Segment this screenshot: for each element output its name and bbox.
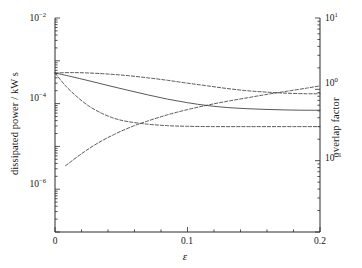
x-axis-title: ε — [150, 250, 220, 262]
curve-2 — [55, 73, 320, 127]
data-curves — [55, 73, 320, 166]
xtick-label-0: 0 — [35, 236, 75, 246]
y-axis-title-left: dissipated power / kW s — [9, 49, 20, 199]
xtick-label-2: 0.2 — [300, 236, 340, 246]
ytick-label-right-0: 101 — [325, 13, 359, 23]
curve-1 — [55, 73, 320, 110]
curve-3 — [66, 86, 320, 166]
axis-ticks — [55, 18, 320, 232]
curve-0 — [55, 73, 320, 94]
y-axis-title-right: overlap factor — [330, 73, 341, 183]
ytick-label-left-0: 10−2 — [12, 13, 46, 23]
plot-area — [0, 0, 362, 268]
chart-figure: 10−2 10−4 10−6 101 100 10−1 0 0.1 0.2 di… — [0, 0, 362, 268]
xtick-label-1: 0.1 — [167, 236, 207, 246]
